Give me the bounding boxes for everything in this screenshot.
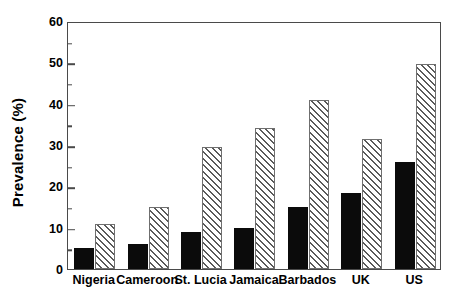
bar <box>74 248 94 269</box>
bar <box>181 232 201 269</box>
bar-group <box>335 23 388 269</box>
x-tick-label: Jamaica <box>229 274 278 288</box>
y-axis-title: Prevalence (%) <box>0 0 34 305</box>
x-axis-tick-labels: NigeriaCameroonSt. LuciaJamaicaBarbadosU… <box>67 274 441 300</box>
bar <box>309 100 329 269</box>
y-tick-label: 30 <box>49 140 63 153</box>
bar-group <box>389 23 442 269</box>
bar-chart-figure: Prevalence (%) 0102030405060 NigeriaCame… <box>0 0 456 305</box>
bar <box>395 162 415 269</box>
y-axis-tick-labels: 0102030405060 <box>30 0 63 305</box>
bar <box>255 128 275 269</box>
bar-group <box>175 23 228 269</box>
x-tick-label: UK <box>352 274 370 288</box>
bar <box>95 224 115 269</box>
y-tick-label: 10 <box>49 222 63 235</box>
x-tick-label: US <box>406 274 423 288</box>
plot-inner <box>68 23 440 269</box>
bar-group <box>121 23 174 269</box>
y-tick-label: 50 <box>49 57 63 70</box>
plot-area <box>67 22 441 270</box>
x-tick-label: Nigeria <box>73 274 115 288</box>
bar <box>149 207 169 269</box>
x-tick-label: Barbados <box>279 274 337 288</box>
y-tick-label: 60 <box>49 16 63 29</box>
bar <box>362 139 382 269</box>
x-tick-label: Cameroon <box>116 274 178 288</box>
bar <box>128 244 148 269</box>
bar <box>341 193 361 269</box>
bar <box>234 228 254 269</box>
bar-group <box>282 23 335 269</box>
x-tick-label: St. Lucia <box>175 274 227 288</box>
y-tick-label: 20 <box>49 181 63 194</box>
y-tick-label: 40 <box>49 98 63 111</box>
bar <box>288 207 308 269</box>
bar <box>202 147 222 269</box>
bar <box>416 64 436 269</box>
bar-group <box>228 23 281 269</box>
y-tick-label: 0 <box>56 264 63 277</box>
bar-group <box>68 23 121 269</box>
